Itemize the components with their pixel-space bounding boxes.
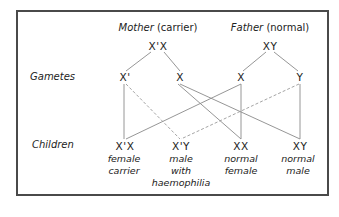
child-genotype-xx: XX xyxy=(233,140,248,152)
desc-line: male xyxy=(152,153,211,165)
child-desc-normal-female: normal female xyxy=(224,153,257,177)
gamete-mother-xprime: X' xyxy=(119,71,130,83)
father-status: (normal) xyxy=(266,22,309,33)
father-heading: Father (normal) xyxy=(231,22,309,34)
desc-line: normal xyxy=(224,153,257,165)
desc-line: female xyxy=(224,165,257,177)
line-mother-to-x xyxy=(164,52,180,71)
line-xprime-to-xpy-dashed xyxy=(126,84,180,139)
line-father-to-y xyxy=(274,52,298,71)
child-desc-male-haemophilia: male with haemophilia xyxy=(152,153,211,189)
line-mother-to-xprime xyxy=(126,52,151,71)
mother-heading: Mother (carrier) xyxy=(119,22,198,34)
gamete-father-y: Y xyxy=(297,71,304,83)
child-genotype-xpx: X'X xyxy=(116,140,135,152)
line-father-to-x xyxy=(243,52,266,71)
father-role: Father xyxy=(231,22,263,33)
mother-status: (carrier) xyxy=(157,22,198,33)
desc-line: with xyxy=(152,165,211,177)
line-fx-to-xpx xyxy=(126,84,241,139)
child-desc-normal-male: normal male xyxy=(281,153,314,177)
child-genotype-xpy: X'Y xyxy=(172,140,190,152)
child-desc-female-carrier: female carrier xyxy=(108,153,141,177)
desc-line: normal xyxy=(281,153,314,165)
gamete-father-x: X xyxy=(237,71,245,83)
mother-genotype: X'X xyxy=(149,40,168,52)
mother-role: Mother xyxy=(119,22,154,33)
children-label: Children xyxy=(32,139,74,151)
desc-line: carrier xyxy=(108,165,141,177)
child-genotype-xy: XY xyxy=(293,140,308,152)
desc-line: haemophilia xyxy=(152,177,211,189)
desc-line: female xyxy=(108,153,141,165)
gamete-mother-x: X xyxy=(176,71,184,83)
gametes-label: Gametes xyxy=(30,71,75,83)
father-genotype: XY xyxy=(263,40,278,52)
desc-line: male xyxy=(281,165,314,177)
line-mx-to-xx xyxy=(178,84,241,139)
